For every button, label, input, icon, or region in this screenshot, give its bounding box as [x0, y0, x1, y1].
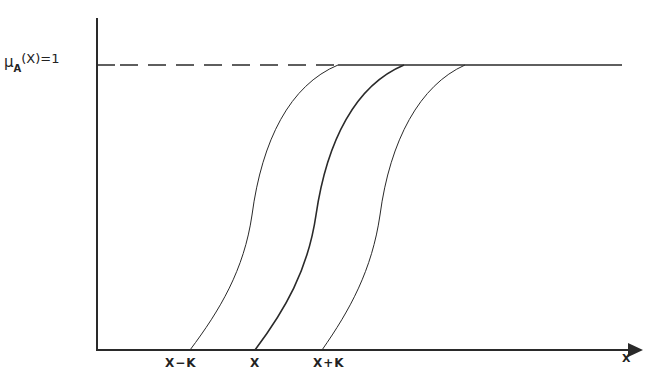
x-tick-label-x-plus-k: X+K — [313, 356, 345, 370]
x-axis-label: X — [622, 352, 631, 365]
x-tick-label-x-minus-k: X−K — [165, 356, 197, 370]
y-axis-label: μA(X)=1 — [4, 53, 60, 71]
curve-x-minus-k — [190, 65, 338, 350]
mu-symbol: μ — [4, 53, 14, 71]
curve-x-plus-k — [322, 65, 465, 350]
x-tick-label-x: X — [250, 356, 260, 370]
membership-diagram — [0, 0, 655, 391]
curve-x — [255, 65, 404, 350]
mu-argument: (X)=1 — [21, 51, 59, 66]
